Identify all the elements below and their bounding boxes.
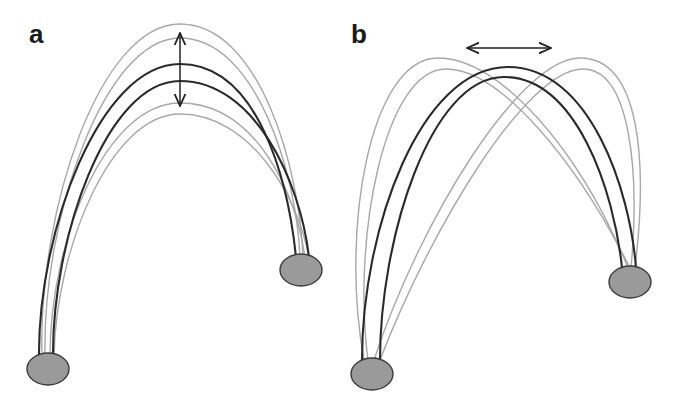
footpoint-a-left: [27, 353, 69, 385]
footpoint-a-right: [280, 254, 322, 286]
footpoint-b-right: [609, 266, 651, 298]
panel-label-a: a: [29, 21, 43, 47]
panel-a-dark-arcs: [39, 64, 309, 357]
arc-b-gray-left-2: [364, 69, 630, 360]
arc-a-dark-inner: [53, 81, 309, 357]
arc-b-gray-right-2: [380, 69, 634, 360]
panel-b: [351, 48, 651, 390]
panel-label-b: b: [351, 21, 367, 47]
arc-a-gray-3: [50, 103, 305, 356]
panel-b-gray-arcs: [356, 58, 641, 360]
arch-diagram-svg: [0, 0, 678, 418]
footpoint-b-left: [351, 358, 393, 390]
arc-b-dark-outer: [362, 67, 636, 360]
arc-b-dark-inner: [380, 77, 622, 360]
arc-a-gray-1: [42, 24, 303, 356]
arc-a-gray-4: [54, 114, 309, 356]
panel-b-dark-arcs: [362, 67, 636, 360]
arc-a-dark-outer: [39, 64, 296, 357]
panel-a: [27, 24, 322, 385]
arc-b-gray-left-1: [356, 58, 628, 360]
arch-figure: a b: [0, 0, 678, 418]
arc-a-gray-2: [45, 38, 300, 356]
